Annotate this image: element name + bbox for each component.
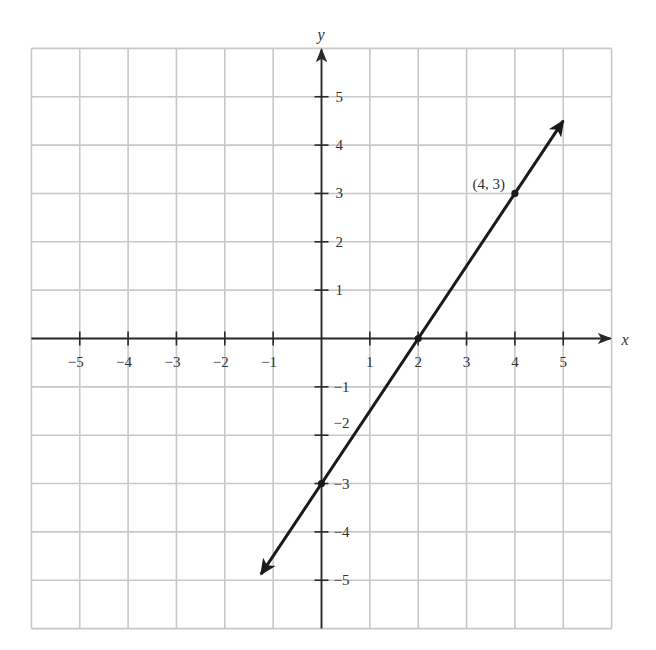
y-tick-label: −5 [334,572,350,588]
x-tick-label: −5 [68,354,84,370]
x-tick-label: 4 [511,354,519,370]
y-tick-label: 4 [336,137,344,153]
line-series [261,121,563,574]
y-tick-label: −1 [334,379,350,395]
x-tick-label: 2 [414,354,422,370]
data-point [318,480,325,487]
x-tick-label: 1 [366,354,374,370]
y-tick-label: 5 [336,89,344,105]
point-label: (4, 3) [472,176,505,193]
x-tick-label: 5 [560,354,568,370]
data-point [511,190,518,197]
x-tick-label: −4 [116,354,132,370]
y-tick-label: 1 [336,282,344,298]
data-series [261,121,563,574]
y-axis-label: y [316,26,326,44]
x-tick-label: −3 [164,354,180,370]
y-tick-label: 2 [336,234,344,250]
x-axis-label: x [621,331,629,348]
data-point [415,335,422,342]
y-tick-label: 3 [336,185,344,201]
x-tick-label: −1 [261,354,277,370]
y-tick-label: −4 [334,524,350,540]
y-tick-label: −2 [334,415,350,431]
y-tick-label: −3 [334,476,350,492]
x-tick-label: −2 [213,354,229,370]
coordinate-plane: −5−4−3−2−112345−5−4−3−2−112345 (4, 3) x … [0,0,656,650]
x-tick-label: 3 [463,354,471,370]
axes [31,49,610,628]
